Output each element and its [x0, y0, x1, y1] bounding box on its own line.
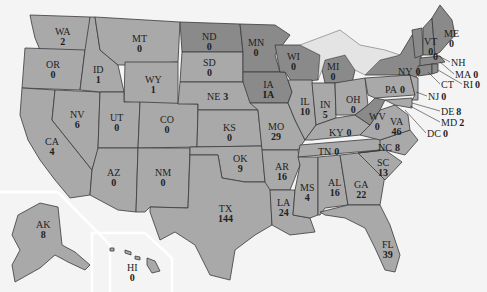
- label-oh: OH0: [346, 95, 360, 115]
- label-id: ID1: [93, 65, 104, 85]
- callout-md: MD2: [441, 118, 464, 128]
- label-ok: OK9: [233, 154, 247, 174]
- map-shapes: [0, 0, 487, 292]
- label-mt: MT0: [132, 34, 147, 54]
- callout-nj: NJ0: [428, 92, 446, 102]
- label-ca: CA4: [45, 137, 59, 157]
- label-ky: KY0: [329, 128, 351, 138]
- label-nc: NC8: [378, 143, 400, 153]
- label-al: AL16: [328, 178, 341, 198]
- label-ga: GA22: [354, 180, 368, 200]
- callout-ct: CT: [441, 80, 454, 90]
- label-tn: TN0: [318, 147, 339, 157]
- label-in: IN5: [320, 100, 331, 120]
- label-wy: WY1: [145, 75, 162, 95]
- callout-ri: RI0: [463, 80, 480, 90]
- label-nd: ND0: [202, 32, 216, 52]
- label-nv: NV6: [70, 110, 84, 130]
- label-wv: WV0: [369, 112, 386, 132]
- label-la: LA24: [277, 198, 290, 218]
- label-or: OR0: [46, 60, 60, 80]
- label-co: CO0: [160, 115, 174, 135]
- label-sc: SC13: [377, 158, 389, 178]
- label-ar: AR16: [275, 162, 289, 182]
- label-az: AZ0: [107, 168, 120, 188]
- label-nh-value: 0: [433, 52, 438, 62]
- label-mn: MN0: [248, 38, 264, 58]
- label-va: VA46: [390, 117, 403, 137]
- callout-de: DE8: [441, 107, 461, 117]
- us-map: WA2 OR0 CA4 NV6 ID1 MT0 WY1 UT0 CO0 AZ0 …: [0, 0, 487, 292]
- label-pa: PA0: [385, 85, 405, 95]
- label-ms: MS4: [300, 183, 314, 203]
- label-ks: KS0: [223, 123, 236, 143]
- label-ne: NE3: [207, 92, 228, 102]
- label-ut: UT0: [110, 113, 123, 133]
- label-mi: MI0: [327, 62, 339, 82]
- label-nm: NM0: [155, 168, 171, 188]
- label-wa: WA2: [55, 27, 71, 47]
- callout-dc: DC0: [427, 129, 448, 139]
- callout-nh: NH: [451, 58, 465, 68]
- state-ri: [432, 64, 438, 74]
- label-il: IL10: [300, 97, 310, 117]
- label-sd: SD0: [203, 58, 216, 78]
- label-me: ME0: [444, 29, 459, 49]
- label-fl: FL39: [382, 240, 394, 260]
- label-ak: AK8: [36, 220, 50, 240]
- label-wi: WI0: [287, 52, 300, 72]
- label-mo: MO29: [268, 122, 284, 142]
- label-tx: TX144: [218, 204, 233, 224]
- label-ny: NY0: [398, 67, 420, 77]
- label-hi: HI0: [127, 263, 138, 283]
- label-ia: IAIA: [263, 80, 274, 100]
